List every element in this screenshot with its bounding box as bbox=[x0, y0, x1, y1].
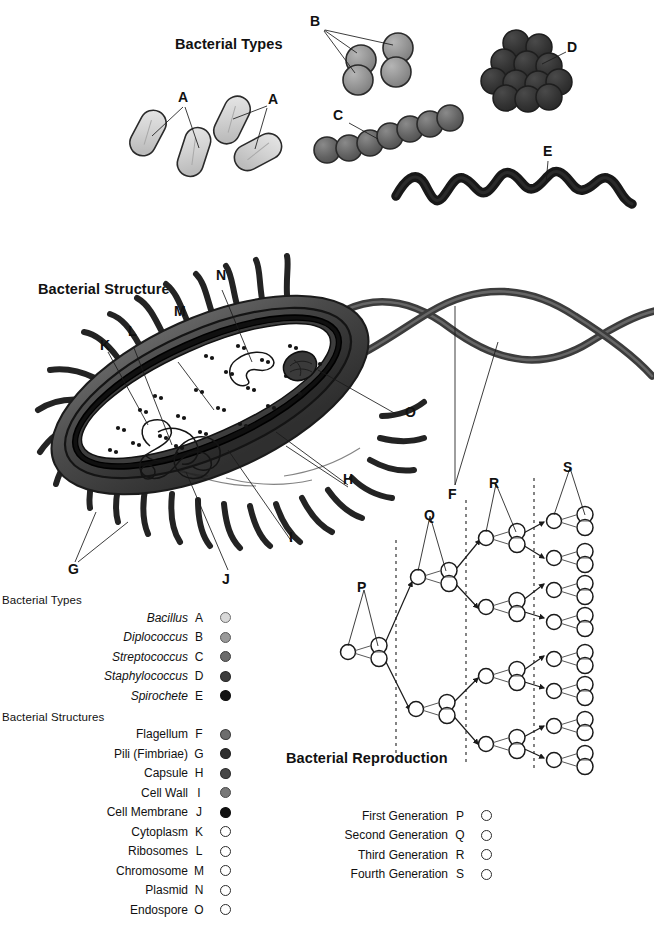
legend-row-type[interactable]: BacillusA bbox=[0, 608, 240, 628]
generation-key: P bbox=[448, 810, 472, 822]
legend-item-key: I bbox=[188, 787, 210, 799]
generation-legend-row[interactable]: Fourth GenerationS bbox=[290, 865, 500, 885]
legend-item-key: O bbox=[188, 904, 210, 916]
diagram-canvas: Bacterial Types bbox=[0, 0, 654, 932]
callout-q: Q bbox=[424, 508, 435, 522]
generation-legend-row[interactable]: Third GenerationR bbox=[290, 845, 500, 865]
generation-key: S bbox=[448, 868, 472, 880]
bacillus-rods bbox=[125, 92, 286, 180]
leader-j bbox=[186, 472, 228, 570]
legend-item-swatch-cell bbox=[210, 807, 240, 818]
generation-key: Q bbox=[448, 829, 472, 841]
generation-swatch-p bbox=[481, 810, 492, 821]
legend-swatch-c bbox=[220, 651, 231, 662]
bacterial-reproduction-tree bbox=[330, 470, 654, 770]
generation-name: First Generation bbox=[362, 810, 448, 822]
legend-item-swatch-cell bbox=[210, 904, 240, 915]
legend-item-key: A bbox=[188, 612, 210, 624]
legend-row-structure[interactable]: Cell MembraneJ bbox=[0, 803, 240, 823]
legend-row-type[interactable]: StaphylococcusD bbox=[0, 667, 240, 687]
generation-name: Third Generation bbox=[358, 849, 448, 861]
generation-swatch-s bbox=[481, 869, 492, 880]
bacterial-types-illustration bbox=[0, 0, 654, 240]
legend-item-key: N bbox=[188, 884, 210, 896]
legend-item-swatch-cell bbox=[210, 885, 240, 896]
generation-r-cells bbox=[479, 524, 526, 759]
callout-d: D bbox=[567, 40, 577, 54]
leader-q bbox=[418, 516, 446, 571]
legend-item-key: J bbox=[188, 806, 210, 818]
legend-item-key: G bbox=[188, 748, 210, 760]
callout-e: E bbox=[543, 144, 552, 158]
legend-row-structure[interactable]: CytoplasmK bbox=[0, 822, 240, 842]
legend-swatch-f bbox=[220, 729, 231, 740]
legend-row-type[interactable]: DiplococcusB bbox=[0, 628, 240, 648]
legend-item-swatch-cell bbox=[210, 846, 240, 857]
callout-g: G bbox=[68, 562, 79, 576]
legend-item-name: Spirochete bbox=[131, 690, 188, 702]
generation-legend-row[interactable]: First GenerationP bbox=[290, 806, 500, 826]
legend-item-name: Flagellum bbox=[136, 728, 188, 740]
generation-swatch-cell bbox=[472, 869, 500, 880]
diplococcus-cells bbox=[343, 33, 413, 95]
legend-row-structure[interactable]: FlagellumF bbox=[0, 725, 240, 745]
generation-name: Second Generation bbox=[345, 829, 448, 841]
legend-item-key: B bbox=[188, 631, 210, 643]
legend-item-swatch-cell bbox=[210, 768, 240, 779]
generation-swatch-q bbox=[481, 830, 492, 841]
legend-swatch-l bbox=[220, 846, 231, 857]
legend-item-name: Pili (Fimbriae) bbox=[114, 748, 188, 760]
generation-q-cells bbox=[409, 563, 458, 724]
legend-item-swatch-cell bbox=[210, 787, 240, 798]
legend-item-swatch-cell bbox=[210, 612, 240, 623]
legend-swatch-b bbox=[220, 632, 231, 643]
generation-s-cells bbox=[547, 507, 594, 775]
legend-row-structure[interactable]: ChromosomeM bbox=[0, 861, 240, 881]
legend-item-swatch-cell bbox=[210, 729, 240, 740]
spirochete-cell bbox=[396, 172, 632, 204]
generation-key: R bbox=[448, 849, 472, 861]
legend-item-name: Ribosomes bbox=[128, 845, 188, 857]
legend-row-structure[interactable]: RibosomesL bbox=[0, 842, 240, 862]
legend-item-swatch-cell bbox=[210, 865, 240, 876]
generation-legend-row[interactable]: Second GenerationQ bbox=[290, 826, 500, 846]
legend-row-type[interactable]: StreptococcusC bbox=[0, 647, 240, 667]
legend-swatch-e bbox=[220, 690, 231, 701]
generation-swatch-cell bbox=[472, 849, 500, 860]
callout-r: R bbox=[489, 476, 499, 490]
legend-structures-list: FlagellumFPili (Fimbriae)GCapsuleHCell W… bbox=[0, 725, 240, 920]
legend-row-structure[interactable]: PlasmidN bbox=[0, 881, 240, 901]
callout-p: P bbox=[357, 580, 366, 594]
legend-item-name: Plasmid bbox=[145, 884, 188, 896]
leader-p bbox=[348, 590, 378, 646]
legend-swatch-i bbox=[220, 787, 231, 798]
legend-row-structure[interactable]: EndosporeO bbox=[0, 900, 240, 920]
legend-row-structure[interactable]: Pili (Fimbriae)G bbox=[0, 744, 240, 764]
generation-legend-panel: First GenerationPSecond GenerationQThird… bbox=[290, 806, 500, 884]
legend-row-type[interactable]: SpirocheteE bbox=[0, 686, 240, 706]
legend-item-key: C bbox=[188, 651, 210, 663]
staphylococcus-cluster bbox=[481, 30, 572, 112]
legend-swatch-k bbox=[220, 826, 231, 837]
legend-item-name: Chromosome bbox=[116, 865, 188, 877]
legend-item-key: K bbox=[188, 826, 210, 838]
callout-c: C bbox=[333, 108, 343, 122]
callout-k: K bbox=[100, 338, 110, 352]
legend-item-name: Endospore bbox=[130, 904, 188, 916]
legend-row-structure[interactable]: CapsuleH bbox=[0, 764, 240, 784]
callout-s: S bbox=[563, 460, 572, 474]
legend-types-list: BacillusADiplococcusBStreptococcusCStaph… bbox=[0, 608, 240, 706]
legend-swatch-h bbox=[220, 768, 231, 779]
legend-item-name: Diplococcus bbox=[123, 631, 188, 643]
callout-n: N bbox=[216, 268, 226, 282]
legend-swatch-a bbox=[220, 612, 231, 623]
legend-row-structure[interactable]: Cell WallI bbox=[0, 783, 240, 803]
callout-o: O bbox=[405, 405, 416, 419]
legend-swatch-n bbox=[220, 885, 231, 896]
legend-item-name: Bacillus bbox=[147, 612, 188, 624]
legend-item-swatch-cell bbox=[210, 671, 240, 682]
generation-legend-list: First GenerationPSecond GenerationQThird… bbox=[290, 806, 500, 884]
callout-a-right: A bbox=[268, 92, 278, 106]
legend-item-key: F bbox=[188, 728, 210, 740]
legend-swatch-g bbox=[220, 748, 231, 759]
